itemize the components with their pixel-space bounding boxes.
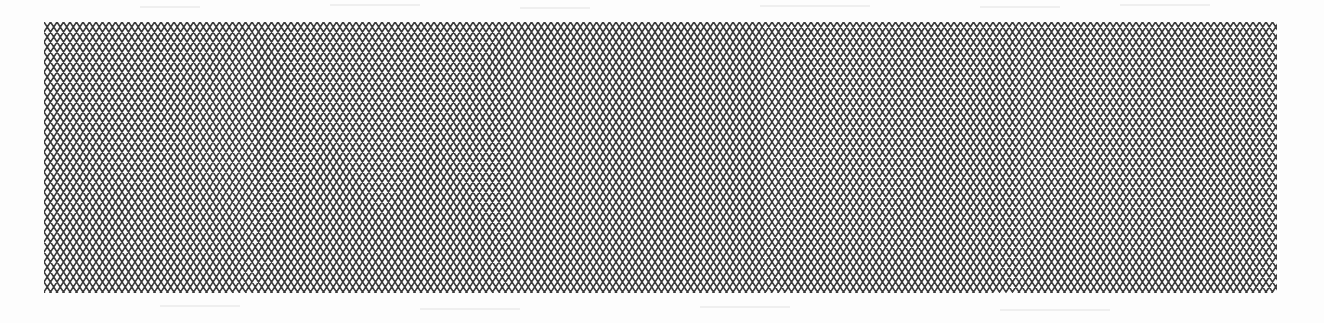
- mesh-lines: [44, 22, 1277, 293]
- diamond-lattice: [44, 22, 1277, 293]
- diamond-mesh-figure: [44, 22, 1277, 293]
